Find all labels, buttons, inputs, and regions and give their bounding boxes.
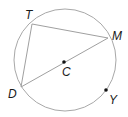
label-M: M bbox=[112, 29, 122, 43]
center-point-C bbox=[62, 60, 66, 64]
chord-TD bbox=[21, 24, 32, 87]
diagram-canvas: T M D C Y bbox=[0, 0, 128, 117]
circle-diagram: T M D C Y bbox=[0, 0, 128, 117]
label-Y: Y bbox=[109, 93, 118, 107]
label-D: D bbox=[8, 87, 17, 101]
point-Y bbox=[104, 88, 108, 92]
label-C: C bbox=[62, 65, 71, 79]
chord-TM bbox=[32, 24, 108, 38]
label-T: T bbox=[25, 8, 34, 22]
circle-C bbox=[14, 9, 116, 111]
